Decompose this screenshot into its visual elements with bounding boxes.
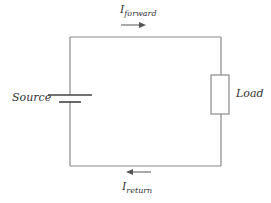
battery-symbol (48, 95, 92, 102)
source-label: Source (12, 91, 51, 104)
circuit-wires (70, 37, 221, 166)
return-current-label: Ireturn (122, 180, 152, 193)
return-current-subscript: return (126, 186, 152, 195)
load-label: Load (236, 87, 264, 100)
return-arrow-icon (126, 169, 151, 175)
forward-arrow-icon (121, 22, 146, 28)
forward-current-subscript: forward (124, 9, 156, 18)
forward-current-label: Iforward (120, 3, 157, 16)
load-resistor-symbol (211, 75, 229, 114)
